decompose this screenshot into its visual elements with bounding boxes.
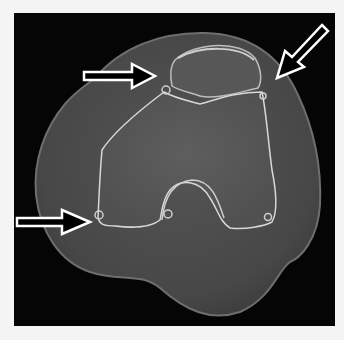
patella [171,45,261,97]
ct-knee-image [0,0,344,340]
image-frame [0,0,344,340]
